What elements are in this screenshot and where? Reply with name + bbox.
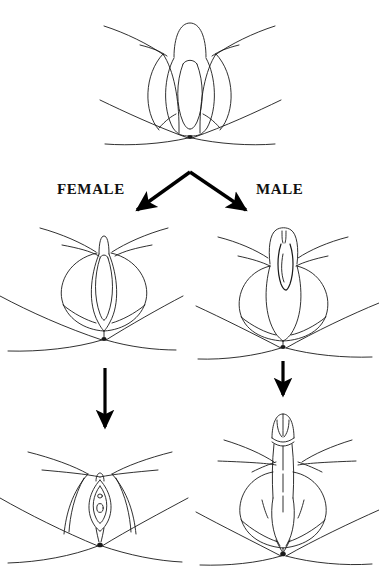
anus (101, 337, 106, 341)
anus (97, 543, 103, 548)
branch-arrow-to-male (190, 172, 246, 210)
lower-crease-left (63, 305, 96, 323)
thigh-right (192, 100, 281, 138)
urogenital-groove-right (104, 258, 113, 320)
urogenital-groove-left (96, 258, 105, 320)
thigh-left (196, 306, 281, 348)
groin-crease-right (298, 237, 348, 258)
lower-crease-left (241, 317, 276, 335)
mons-line-left (42, 470, 100, 477)
diagram-canvas (0, 0, 379, 566)
penile-shaft-right (292, 444, 294, 498)
groin-crease-right (215, 26, 275, 55)
genital-development-diagram: FEMALE MALE (0, 0, 379, 566)
figure-female-differentiating-genitalia (0, 228, 183, 351)
groin-crease-left (224, 440, 274, 462)
buttock-right (192, 138, 275, 145)
mons-line-left (218, 461, 276, 465)
scrotum-inner-left (272, 498, 280, 546)
thigh-right (102, 498, 188, 546)
figure-female-mature-genitalia (0, 452, 188, 563)
urethral-fold-left (266, 266, 283, 341)
perineum-right (283, 540, 290, 553)
labioscrotal-swelling-left (61, 253, 104, 331)
buttock-left (8, 546, 98, 563)
labium-majus-left-inner (69, 478, 84, 532)
buttock-right (106, 340, 176, 350)
perineum-left (276, 540, 283, 553)
labium-majus-right-inner (116, 478, 131, 532)
groin-crease-right (302, 440, 352, 462)
urogenital-groove-top (183, 60, 197, 64)
glans-notch-right (285, 231, 286, 243)
buttock-right (286, 556, 372, 565)
glans-penis (269, 228, 298, 264)
vestibule-right (100, 486, 107, 523)
figure-male-differentiating-genitalia (196, 228, 379, 359)
thigh-left (0, 498, 98, 546)
lower-crease-left (159, 114, 176, 128)
urethral-groove-right (286, 244, 293, 290)
mons-line-left (238, 256, 270, 266)
figure-indifferent-genitalia (100, 23, 281, 145)
buttock-right (286, 348, 372, 357)
urethral-groove-inner (282, 254, 284, 282)
groin-crease-left (104, 26, 164, 55)
vestibule-left (93, 486, 100, 523)
branch-arrow-to-female (137, 172, 190, 210)
labioscrotal-swelling-left (148, 54, 163, 130)
thigh-left (196, 512, 281, 556)
male-label: MALE (256, 181, 303, 198)
scrotum-right (283, 472, 326, 548)
groin-crease-right (112, 452, 172, 474)
urethral-orifice (98, 494, 103, 498)
mons-line-right (298, 461, 356, 465)
thigh-left (0, 296, 102, 340)
scrotum-inner-right (286, 498, 294, 546)
penile-shaft-left (272, 444, 274, 498)
scrotal-fold-right (298, 500, 304, 518)
groin-crease-left (218, 237, 268, 258)
thigh-right (106, 296, 183, 340)
mons-line-right (296, 256, 328, 266)
figure-male-mature-genitalia (196, 414, 379, 565)
scrotal-fold-left (262, 500, 268, 518)
urethral-fold-right (191, 58, 214, 136)
mons-line-right (100, 470, 158, 477)
labioscrotal-swelling-right (216, 54, 231, 130)
groin-crease-right (112, 228, 168, 252)
prepuce (272, 438, 294, 442)
buttock-right (102, 546, 182, 562)
female-label: FEMALE (57, 181, 125, 198)
scrotum-left (240, 472, 283, 548)
genital-tubercle (174, 23, 206, 57)
anus (187, 135, 192, 139)
thigh-right (286, 510, 379, 556)
buttock-left (105, 138, 188, 145)
lower-crease-right (112, 305, 145, 323)
buttock-left (8, 340, 102, 351)
corona (272, 442, 294, 446)
anus (280, 345, 285, 349)
glans-clitoris (99, 236, 109, 254)
lower-crease-right (291, 317, 326, 335)
labium-majus-right (112, 474, 136, 534)
buttock-left (200, 556, 281, 565)
labium-majus-left (64, 474, 88, 534)
glans-lobe-right (284, 420, 289, 437)
thigh-left (100, 100, 188, 138)
vaginal-orifice (97, 504, 103, 513)
buttock-left (198, 348, 281, 359)
groin-crease-left (40, 228, 96, 252)
urogenital-groove-left (178, 64, 190, 129)
glans-notch-left (282, 231, 283, 243)
urogenital-groove-top (100, 255, 108, 258)
glans-lobe-left (277, 420, 282, 437)
groin-crease-left (28, 452, 88, 474)
